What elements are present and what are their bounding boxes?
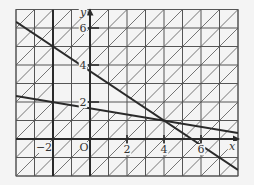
y-tick-label: 4 [80,59,87,72]
inequality-diagram: −2246246Oxy [0,0,253,185]
y-tick-label: 6 [80,22,87,35]
x-tick-label: 4 [161,143,168,156]
hatch-line [0,10,35,177]
hatch-line [0,10,16,177]
origin-label: O [79,141,88,154]
graph-canvas: −2246246Oxy [0,0,253,185]
x-tick-label: 2 [124,143,131,156]
hatch-line [183,10,254,177]
x-tick-label: 6 [198,143,205,156]
y-tick-label: 2 [80,96,87,109]
y-axis-label: y [79,6,87,19]
x-tick-label: −2 [36,141,52,154]
x-axis-label: x [229,140,236,153]
hatch-line [238,10,253,177]
